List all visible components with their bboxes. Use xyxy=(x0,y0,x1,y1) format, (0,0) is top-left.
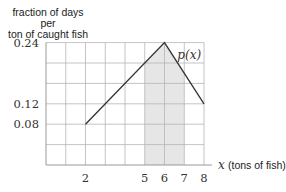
x-axis-label: x(tons of fish) xyxy=(218,158,286,172)
x-tick-label: 7 xyxy=(181,171,188,185)
y-tick-label: 0.24 xyxy=(13,36,39,50)
y-tick-label: 0.08 xyxy=(13,117,39,131)
x-tick-label: 8 xyxy=(200,171,207,185)
curve-label: p(x) xyxy=(177,48,201,62)
x-tick-label: 6 xyxy=(161,171,168,185)
x-tick-label: 5 xyxy=(141,171,148,185)
y-tick-label: 0.12 xyxy=(13,97,39,111)
y-tick-labels: 0.080.120.24 xyxy=(13,36,39,132)
x-tick-labels: 25678 xyxy=(82,171,208,185)
x-axis-unit: (tons of fish) xyxy=(228,159,286,171)
x-tick-label: 2 xyxy=(82,171,89,185)
x-axis-variable: x xyxy=(218,158,225,172)
chart-plot: 0.080.120.24 25678 p(x) x(tons of fish) xyxy=(0,0,286,192)
